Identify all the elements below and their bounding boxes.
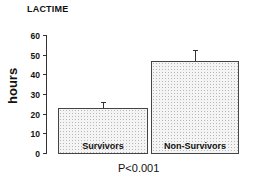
bar-non-survivors: Non-Survivors: [151, 61, 239, 154]
bar-label-survivors: Survivors: [59, 141, 147, 151]
y-tick-50: [43, 55, 47, 56]
error-cap-non-survivors: [193, 50, 198, 51]
y-tick-label-10: 10: [20, 129, 40, 139]
y-tick-label-60: 60: [20, 31, 40, 41]
y-tick-10: [43, 133, 47, 134]
y-tick-label-40: 40: [20, 70, 40, 80]
error-cap-survivors: [101, 102, 106, 103]
bar-survivors: Survivors: [58, 108, 148, 154]
y-axis-label: hours: [5, 68, 20, 104]
y-tick-60: [43, 35, 47, 36]
y-tick-label-20: 20: [20, 110, 40, 120]
y-tick-20: [43, 114, 47, 115]
p-value-annotation: P<0.001: [118, 162, 159, 174]
y-tick-label-30: 30: [20, 90, 40, 100]
y-tick-40: [43, 74, 47, 75]
chart-title: LACTIME: [27, 4, 68, 14]
y-tick-label-50: 50: [20, 51, 40, 61]
bar-label-non-survivors: Non-Survivors: [152, 141, 238, 151]
y-tick-label-0: 0: [20, 149, 40, 159]
error-bar-non-survivors: [195, 50, 196, 61]
y-tick-30: [43, 94, 47, 95]
y-tick-0: [43, 153, 47, 154]
